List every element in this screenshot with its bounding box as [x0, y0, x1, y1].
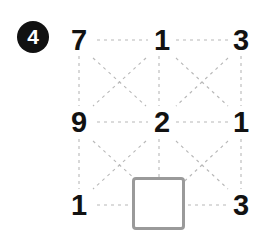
- grid-cell-r2c2: 3: [221, 188, 261, 222]
- grid-cell-r2c0: 1: [59, 188, 99, 222]
- answer-box[interactable]: [132, 177, 185, 230]
- grid-cell-r1c0: 9: [59, 105, 99, 139]
- puzzle-root: 4: [0, 0, 264, 238]
- grid-cell-r0c0: 7: [59, 23, 99, 57]
- grid-cell-r0c2: 3: [221, 23, 261, 57]
- connector-diag-ul-up: [93, 58, 146, 106]
- grid-cell-r1c1: 2: [142, 105, 182, 139]
- grid-cell-r0c1: 1: [142, 23, 182, 57]
- connector-diag-ur-up: [176, 58, 228, 106]
- grid-cell-r1c2: 1: [221, 105, 261, 139]
